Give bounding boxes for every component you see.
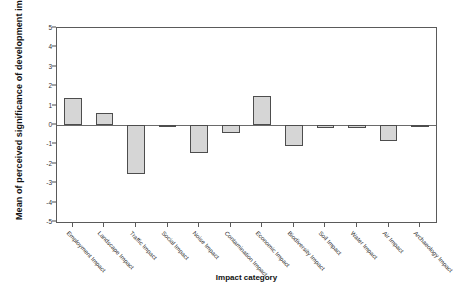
y-axis-ticks: 543210-1-2-3-4-5 xyxy=(34,0,52,298)
x-tick-label: Employment Impact xyxy=(65,230,106,273)
x-tick-label: Biodiversity Impact xyxy=(286,230,325,272)
bar xyxy=(380,125,398,141)
y-tick-label: -5 xyxy=(36,218,52,225)
x-axis-title: Impact category xyxy=(56,273,437,282)
y-tick-label: 5 xyxy=(36,24,52,31)
y-tick-label: 2 xyxy=(36,82,52,89)
x-tick-label: Social Impact xyxy=(160,230,189,261)
y-tick-label: -2 xyxy=(36,159,52,166)
x-axis-ticks xyxy=(56,223,437,229)
x-tick-mark xyxy=(356,223,357,227)
bar xyxy=(411,125,429,127)
bar xyxy=(317,125,335,128)
plot-area xyxy=(56,27,437,223)
x-tick-mark xyxy=(230,223,231,227)
x-tick-label: Air Impact xyxy=(381,230,404,254)
y-tick-label: 3 xyxy=(36,62,52,69)
x-tick-label: Contamination Impact xyxy=(223,230,268,278)
bar xyxy=(127,125,145,174)
x-tick-mark xyxy=(103,223,104,227)
x-tick-label: Traffic Impact xyxy=(129,230,158,261)
y-tick-label: 0 xyxy=(36,121,52,128)
x-tick-mark xyxy=(167,223,168,227)
x-tick-label: Archaeology Impact xyxy=(413,230,454,274)
x-tick-label: Water Impact xyxy=(350,230,379,260)
x-tick-mark xyxy=(198,223,199,227)
bar xyxy=(222,125,240,133)
bar xyxy=(64,98,82,125)
y-tick-label: 1 xyxy=(36,101,52,108)
x-tick-mark xyxy=(261,223,262,227)
bar xyxy=(348,125,366,128)
y-axis-title-text: Mean of perceived significance of develo… xyxy=(14,14,24,220)
bar xyxy=(285,125,303,146)
x-tick-label: Noise Impact xyxy=(192,230,221,260)
x-tick-mark xyxy=(419,223,420,227)
y-tick-label: -1 xyxy=(36,140,52,147)
bar xyxy=(190,125,208,153)
x-tick-label: Landscape Impact xyxy=(97,230,135,271)
y-tick-label: -3 xyxy=(36,179,52,186)
bar xyxy=(96,113,114,125)
x-tick-label: Economic Impact xyxy=(255,230,291,268)
x-tick-mark xyxy=(293,223,294,227)
y-tick-label: 4 xyxy=(36,43,52,50)
bar xyxy=(159,125,177,127)
x-tick-label: Soil Impact xyxy=(318,230,343,256)
x-tick-mark xyxy=(324,223,325,227)
y-tick-label: -4 xyxy=(36,198,52,205)
x-tick-mark xyxy=(135,223,136,227)
y-axis-title: Mean of perceived significance of develo… xyxy=(8,12,30,222)
bar-chart-figure: Mean of perceived significance of develo… xyxy=(0,0,461,298)
x-tick-mark xyxy=(388,223,389,227)
x-tick-mark xyxy=(72,223,73,227)
bar xyxy=(253,96,271,125)
